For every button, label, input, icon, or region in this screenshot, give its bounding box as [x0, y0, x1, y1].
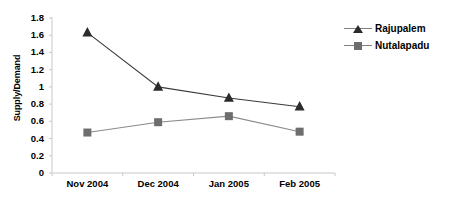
series-line-rajupalem — [87, 33, 299, 107]
data-point-marker-square — [154, 118, 162, 126]
data-point-marker-triangle — [82, 27, 92, 36]
y-tick-label: 0.2 — [0, 150, 44, 161]
data-point-marker-square — [225, 112, 233, 120]
x-tick-label: Feb 2005 — [255, 178, 345, 189]
y-tick-label: 1.6 — [0, 29, 44, 40]
line-chart: Supply/Demand 00.20.40.60.811.21.41.61.8… — [0, 0, 449, 200]
y-tick-label: 0.4 — [0, 133, 44, 144]
chart-legend: Rajupalem Nutalapadu — [344, 20, 448, 54]
data-point-marker-square — [296, 128, 304, 136]
y-tick-label: 1 — [0, 81, 44, 92]
y-tick-label: 0 — [0, 167, 44, 178]
data-point-marker-triangle — [153, 81, 163, 90]
series-line-nutalapadu — [87, 116, 299, 132]
legend-item-rajupalem[interactable]: Rajupalem — [344, 20, 448, 37]
y-tick-label: 0.8 — [0, 98, 44, 109]
y-tick-label: 0.6 — [0, 115, 44, 126]
y-tick-label: 1.8 — [0, 12, 44, 23]
legend-label: Rajupalem — [372, 23, 426, 34]
legend-key-square-icon — [344, 39, 372, 52]
data-point-marker-square — [83, 129, 91, 137]
y-tick-label: 1.2 — [0, 64, 44, 75]
legend-key-triangle-icon — [344, 22, 372, 35]
y-tick-label: 1.4 — [0, 46, 44, 57]
legend-item-nutalapadu[interactable]: Nutalapadu — [344, 37, 448, 54]
legend-label: Nutalapadu — [372, 40, 429, 51]
